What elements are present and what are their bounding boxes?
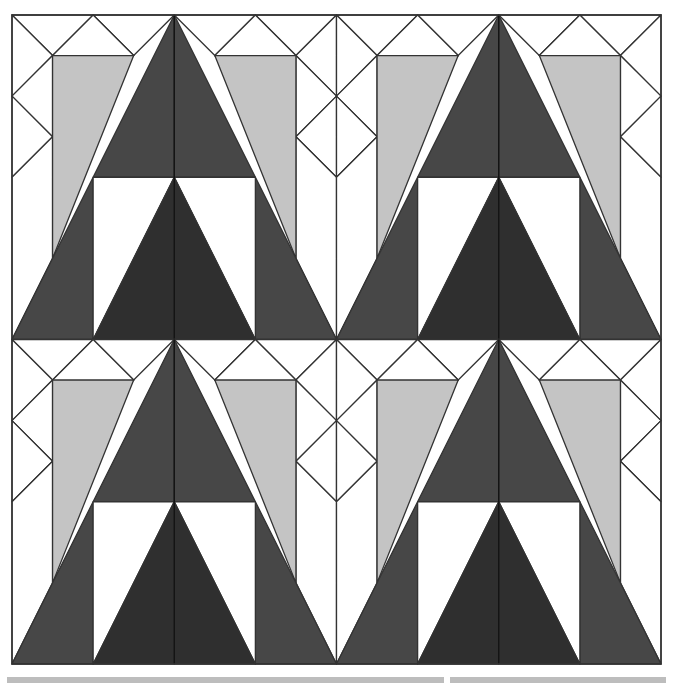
footer-bar-right: [450, 677, 666, 683]
footer-bar-left: [7, 677, 444, 683]
quilt-diagram: [0, 0, 675, 683]
